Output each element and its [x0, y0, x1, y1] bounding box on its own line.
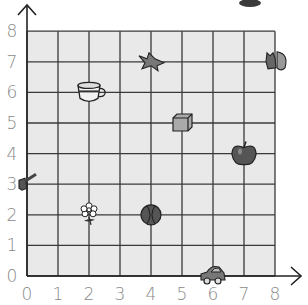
y-tick-label: 4: [7, 144, 18, 164]
x-tick-label: 3: [115, 284, 126, 304]
x-tick-label: 0: [22, 284, 33, 304]
box-icon: box (5, 5): [173, 114, 192, 131]
partial-object-top: [239, 0, 261, 7]
y-tick-label: 7: [7, 52, 18, 72]
x-tick-label: 2: [84, 284, 95, 304]
y-axis-ticks: 012345678: [7, 21, 18, 286]
y-tick-label: 2: [7, 205, 18, 225]
x-tick-label: 6: [208, 284, 219, 304]
squirrel-icon: squirrel (8, 7): [266, 52, 286, 70]
coordinate-grid: 012345678 012345678 cup (2, 6)bird (4, 7…: [0, 0, 308, 305]
y-tick-label: 1: [7, 235, 18, 255]
x-tick-label: 7: [239, 284, 250, 304]
ball-icon: ball (4, 2): [141, 205, 161, 225]
x-tick-label: 8: [270, 284, 281, 304]
x-tick-label: 4: [146, 284, 157, 304]
y-tick-label: 0: [7, 266, 18, 286]
y-tick-label: 6: [7, 82, 18, 102]
x-tick-label: 1: [53, 284, 64, 304]
x-tick-label: 5: [177, 284, 188, 304]
x-axis-ticks: 012345678: [22, 284, 281, 304]
y-tick-label: 3: [7, 174, 18, 194]
y-tick-label: 5: [7, 113, 18, 133]
y-tick-label: 8: [7, 21, 18, 41]
